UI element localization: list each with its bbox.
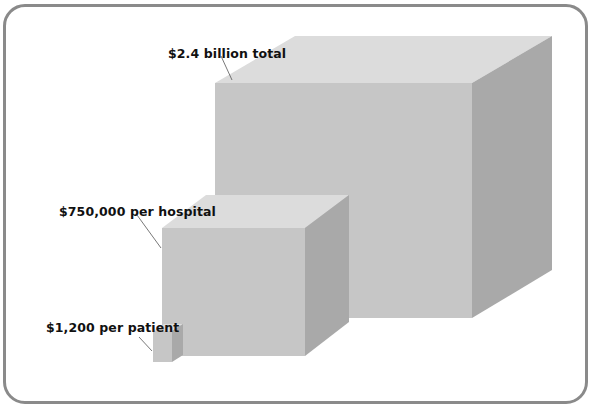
leader-line-hospital: [137, 215, 161, 248]
cube-total-side: [472, 36, 552, 318]
label-patient: $1,200 per patient: [46, 320, 179, 335]
cube-hospital: [162, 195, 349, 356]
cube-hospital-front: [162, 228, 305, 356]
label-total: $2.4 billion total: [168, 46, 286, 61]
cube-patient-front: [153, 331, 172, 362]
leader-line-patient: [139, 337, 152, 351]
label-hospital: $750,000 per hospital: [59, 204, 216, 219]
